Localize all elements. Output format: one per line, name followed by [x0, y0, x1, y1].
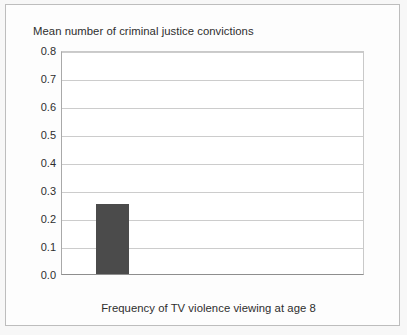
figure-frame: Mean number of criminal justice convicti… [5, 4, 400, 326]
y-axis-tick-label: 0.0 [41, 270, 56, 281]
y-axis-tick-labels: 0.80.70.60.50.40.30.20.10.0 [6, 5, 61, 335]
y-axis-tick-label: 0.2 [41, 214, 56, 225]
bars-layer [62, 52, 363, 274]
plot-area [61, 51, 364, 275]
chart-figure: Mean number of criminal justice convicti… [0, 0, 407, 335]
y-axis-tick-label: 0.4 [41, 158, 56, 169]
y-axis-tick-label: 0.3 [41, 186, 56, 197]
y-axis-tick-label: 0.6 [41, 102, 56, 113]
bar-low [96, 204, 129, 274]
y-axis-tick-label: 0.5 [41, 130, 56, 141]
x-axis-title: Frequency of TV violence viewing at age … [11, 302, 406, 314]
x-axis-tick-labels [61, 279, 364, 297]
y-axis-tick-label: 0.7 [41, 74, 56, 85]
chart-title: Mean number of criminal justice convicti… [33, 25, 254, 37]
y-axis-tick-label: 0.1 [41, 242, 56, 253]
y-axis-tick-label: 0.8 [41, 46, 56, 57]
